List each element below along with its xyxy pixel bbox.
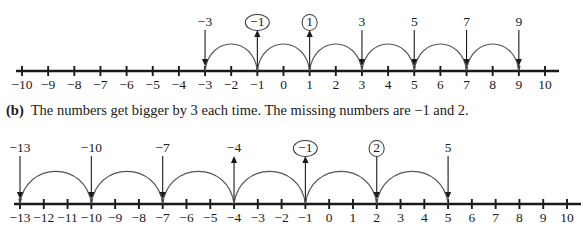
hop-arc [163, 171, 234, 204]
hop-arc [377, 171, 448, 204]
axis-tick-label: −9 [108, 211, 122, 225]
marker-arrowhead-up [302, 156, 308, 163]
axis-tick-label: −12 [33, 211, 54, 225]
hop-arc [91, 171, 162, 204]
hop-arc [234, 171, 305, 204]
axis-tick-label: −1 [298, 211, 312, 225]
hop-value-label: −10 [81, 140, 102, 155]
number-line-bottom-graphic [0, 0, 583, 243]
axis-tick-label: 9 [540, 211, 547, 225]
axis-tick-label: 8 [516, 211, 523, 225]
axis-tick-label: 5 [445, 211, 452, 225]
worksheet-page: −10−9−8−7−6−5−4−3−2−1012345678910−3−1135… [0, 0, 583, 243]
hop-value-label-circled: 2 [368, 140, 385, 157]
hop-value-label: −7 [156, 140, 170, 155]
axis-tick-label: 1 [350, 211, 357, 225]
axis-tick-label: −13 [9, 211, 30, 225]
axis-tick-label: −11 [57, 211, 78, 225]
hop-value-label: 5 [445, 140, 452, 155]
hop-value-label: −13 [9, 140, 30, 155]
axis-tick-label: 7 [492, 211, 499, 225]
axis-tick-label: 10 [560, 211, 574, 225]
hop-value-label: −4 [227, 140, 241, 155]
hop-arc [305, 171, 376, 204]
axis-tick-label: −10 [81, 211, 102, 225]
axis-tick-label: −8 [132, 211, 146, 225]
axis-tick-label: 3 [397, 211, 404, 225]
axis-tick-label: −6 [179, 211, 193, 225]
axis-tick-label: 4 [421, 211, 428, 225]
axis-tick-label: 2 [373, 211, 380, 225]
axis-tick-label: −5 [203, 211, 217, 225]
axis-tick-label: −7 [156, 211, 170, 225]
axis-tick-label: −3 [251, 211, 265, 225]
axis-tick-label: −2 [274, 211, 288, 225]
axis-tick-label: 6 [468, 211, 475, 225]
axis-tick-label: −4 [227, 211, 241, 225]
marker-arrowhead-up [231, 156, 237, 163]
axis-tick-label: 0 [326, 211, 333, 225]
hop-arc [20, 171, 91, 204]
